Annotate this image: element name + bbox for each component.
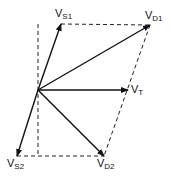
vector-diagram: VS1 VD1 VT VS2 VD2 bbox=[0, 0, 171, 178]
label-vs1: VS1 bbox=[55, 8, 72, 19]
diagram-svg bbox=[0, 0, 171, 178]
vector-vd1-arrow-icon bbox=[38, 25, 150, 90]
dashed-line-0 bbox=[61, 24, 150, 25]
vector-vs2-arrow-icon bbox=[17, 90, 38, 156]
label-vt: VT bbox=[131, 84, 143, 95]
label-vs2: VS2 bbox=[7, 158, 24, 169]
vector-vd2-arrow-icon bbox=[38, 90, 104, 156]
label-vd2: VD2 bbox=[97, 158, 115, 169]
vector-vs1-arrow-icon bbox=[38, 24, 61, 90]
label-vd1: VD1 bbox=[145, 10, 163, 21]
